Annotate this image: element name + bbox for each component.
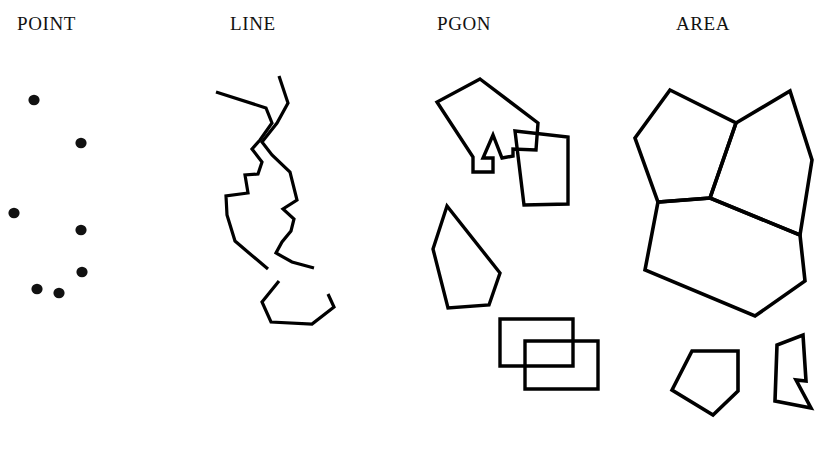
point-dot (53, 288, 64, 298)
point-dot (31, 284, 42, 294)
line-panel-geometry (216, 76, 334, 324)
area-upper-right-polygon (710, 91, 812, 235)
pentagon-polygon (433, 206, 500, 308)
point-dot (75, 138, 86, 148)
pgon-panel-geometry (433, 79, 598, 389)
right-zigzag-polyline (262, 76, 314, 268)
point-dot (28, 95, 39, 105)
point-dot (8, 208, 19, 218)
area-lower-polygon (645, 198, 805, 316)
arrow-polygon (437, 79, 538, 172)
figure-root: POINT LINE PGON AREA (0, 0, 824, 451)
small-pentagon-polygon (672, 351, 738, 415)
area-upper-left-polygon (635, 90, 736, 202)
area-panel-geometry (635, 90, 812, 415)
left-zigzag-polyline (216, 92, 272, 269)
point-panel-geometry (8, 95, 87, 298)
point-dot (76, 267, 87, 277)
geometry-layer (0, 0, 824, 451)
tilted-quad-polygon (515, 131, 568, 205)
notched-polygon (775, 335, 811, 408)
point-dot (75, 225, 86, 235)
u-shaped-polyline (262, 281, 334, 324)
